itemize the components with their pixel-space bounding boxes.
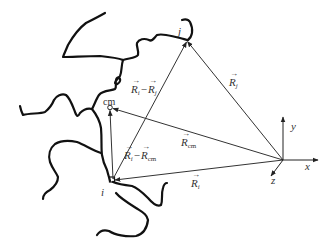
polymer-diagram	[0, 0, 335, 252]
label-Ri: Ri	[191, 178, 200, 191]
label-j: j	[178, 26, 181, 37]
label-Rcm: Rcm	[181, 137, 196, 150]
chain-segment-top-left	[63, 13, 123, 60]
chain-segment-down	[92, 109, 110, 181]
chain-segment-lower-left	[43, 141, 101, 199]
chain-segment-to-j	[123, 19, 192, 60]
label-i: i	[101, 187, 104, 198]
label-cm: cm	[103, 97, 115, 107]
label-axis-x: x	[305, 161, 310, 172]
label-Ri-minus-Rj: Ri−Rj	[131, 84, 157, 97]
label-axis-y: y	[291, 121, 296, 132]
label-Ri-minus-Rcm: Ri−Rcm	[124, 150, 156, 163]
chain-segment-left	[20, 94, 92, 116]
label-Rj: Rj	[229, 77, 238, 90]
vector-Ri-minus-Rcm	[110, 111, 113, 180]
chain-segment-bottom	[97, 193, 148, 236]
label-axis-z: z	[271, 175, 275, 186]
chain-segment-lower-right	[113, 182, 167, 206]
vector-Rj	[188, 42, 284, 161]
